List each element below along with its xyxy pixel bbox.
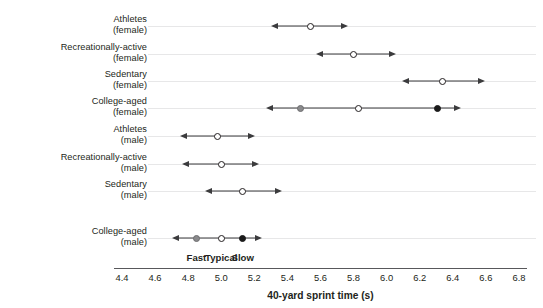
arrowhead-right-icon [478, 78, 485, 84]
arrowhead-right-icon [248, 133, 255, 139]
x-tick-label: 6.8 [512, 272, 525, 283]
data-point-open [355, 105, 362, 112]
x-tick-label: 6.0 [380, 272, 393, 283]
arrowhead-left-icon [402, 78, 409, 84]
data-point-open [218, 161, 225, 168]
arrowhead-left-icon [205, 188, 212, 194]
x-axis-title: 40-yard sprint time (s) [267, 290, 373, 301]
data-point-gray [297, 105, 304, 112]
arrowhead-left-icon [172, 235, 179, 241]
arrowhead-left-icon [271, 23, 278, 29]
data-point-black [239, 235, 246, 242]
arrowhead-left-icon [316, 51, 323, 57]
plot-area [0, 0, 543, 308]
x-tick-label: 4.8 [182, 272, 195, 283]
data-point-open [307, 23, 314, 30]
arrowhead-left-icon [180, 133, 187, 139]
arrowhead-right-icon [454, 105, 461, 111]
legend-label-fast: Fast [187, 252, 207, 263]
arrowhead-right-icon [252, 161, 259, 167]
x-tick-label: 5.6 [314, 272, 327, 283]
x-tick-label: 5.0 [215, 272, 228, 283]
legend-label-slow: Slow [232, 252, 254, 263]
data-point-open [350, 51, 357, 58]
x-axis-line [114, 268, 527, 269]
arrowhead-left-icon [182, 161, 189, 167]
data-point-black [434, 105, 441, 112]
x-tick-label: 4.6 [149, 272, 162, 283]
data-point-gray [193, 235, 200, 242]
arrowhead-right-icon [341, 23, 348, 29]
sprint-time-chart: Athletes(female)Recreationally-active(fe… [0, 0, 543, 308]
x-tick-label: 6.6 [479, 272, 492, 283]
data-point-open [239, 188, 246, 195]
x-tick-label: 5.8 [347, 272, 360, 283]
data-point-open [214, 133, 221, 140]
data-point-open [439, 78, 446, 85]
arrowhead-right-icon [275, 188, 282, 194]
x-tick-label: 4.4 [115, 272, 128, 283]
x-tick-label: 5.2 [248, 272, 261, 283]
arrowhead-right-icon [389, 51, 396, 57]
x-tick-label: 6.2 [413, 272, 426, 283]
data-point-open [218, 235, 225, 242]
arrowhead-right-icon [255, 235, 262, 241]
x-tick-label: 5.4 [281, 272, 294, 283]
arrowhead-left-icon [266, 105, 273, 111]
x-tick-label: 6.4 [446, 272, 459, 283]
